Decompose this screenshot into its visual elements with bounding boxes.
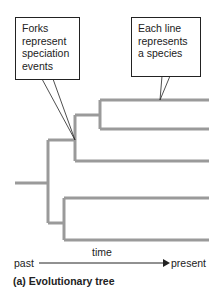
present-label: present (171, 257, 206, 269)
lines-callout-text: Each line represents a species (138, 22, 188, 59)
lines-pointer (160, 76, 170, 100)
tree-branches (15, 100, 209, 240)
time-label: time (92, 246, 112, 258)
forks-callout: Forks represent speciation events (15, 17, 80, 80)
forks-callout-text: Forks represent speciation events (22, 22, 69, 72)
lines-callout: Each line represents a species (131, 17, 201, 77)
past-label: past (14, 257, 34, 269)
evolutionary-tree-figure: Forks represent speciation events Each l… (0, 0, 223, 293)
figure-caption: (a) Evolutionary tree (13, 275, 115, 287)
time-arrow-head (163, 259, 170, 267)
forks-pointer (42, 79, 75, 140)
